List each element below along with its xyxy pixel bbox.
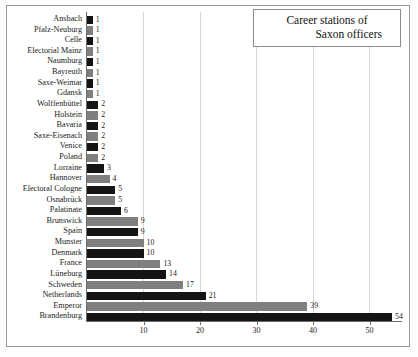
bar-row: Brandenburg54: [0, 311, 418, 323]
x-axis-tick-label: 30: [253, 326, 261, 335]
bar: [87, 58, 93, 66]
bar: [87, 313, 392, 321]
bar-value-label: 39: [310, 300, 318, 312]
bar: [87, 207, 121, 215]
x-axis-tick: [144, 322, 145, 325]
bar: [87, 69, 93, 77]
bar-value-label: 4: [113, 173, 117, 185]
bar: [87, 122, 98, 130]
bar: [87, 132, 98, 140]
bar: [87, 175, 110, 183]
bar: [87, 186, 115, 194]
chart-title-line-1: Career stations of: [260, 14, 394, 28]
bar-value-label: 2: [101, 152, 105, 164]
bar: [87, 260, 160, 268]
bar: [87, 217, 138, 225]
bar: [87, 37, 93, 45]
bar-value-label: 6: [124, 205, 128, 217]
chart-figure: Ansbach1Pfalz-Neuburg1Celle1Electorial M…: [0, 0, 418, 357]
chart-title-line-2: Saxon officers: [260, 28, 394, 42]
bar: [87, 79, 93, 87]
bar: [87, 26, 93, 34]
bar: [87, 164, 104, 172]
bar: [87, 239, 144, 247]
x-axis-tick: [200, 322, 201, 325]
bar: [87, 281, 183, 289]
bar: [87, 292, 206, 300]
bar-rows: Ansbach1Pfalz-Neuburg1Celle1Electorial M…: [0, 0, 418, 357]
x-axis-tick-label: 40: [309, 326, 317, 335]
bar-value-label: 1: [96, 88, 100, 100]
bar: [87, 228, 138, 236]
x-axis-tick-label: 50: [366, 326, 374, 335]
category-label: Brandenburg: [0, 310, 82, 322]
bar-value-label: 9: [141, 226, 145, 238]
bar: [87, 143, 98, 151]
x-axis-tick-label: 20: [196, 326, 204, 335]
bar-value-label: 54: [395, 311, 403, 323]
bar-value-label: 3: [107, 162, 111, 174]
bar: [87, 111, 98, 119]
bar: [87, 90, 93, 98]
x-axis-tick-label: 10: [140, 326, 148, 335]
bar: [87, 154, 98, 162]
bar: [87, 16, 93, 24]
bar: [87, 47, 93, 55]
x-axis-tick: [313, 322, 314, 325]
bar-value-label: 5: [118, 194, 122, 206]
bar-value-label: 21: [209, 290, 217, 302]
x-axis-tick: [370, 322, 371, 325]
bar: [87, 302, 307, 310]
bar-value-label: 14: [169, 268, 177, 280]
bar-value-label: 17: [186, 279, 194, 291]
chart-title-box: Career stations of Saxon officers: [253, 9, 401, 47]
bar: [87, 101, 98, 109]
bar: [87, 249, 144, 257]
bar: [87, 196, 115, 204]
bar-value-label: 10: [147, 247, 155, 259]
x-axis-tick: [257, 322, 258, 325]
bar: [87, 270, 166, 278]
